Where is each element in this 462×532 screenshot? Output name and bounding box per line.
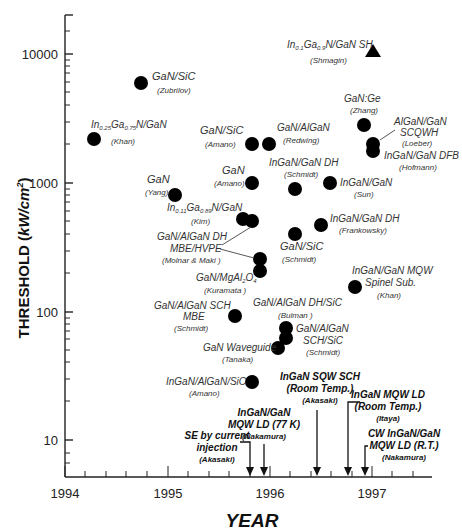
svg-text:MBE: MBE bbox=[183, 311, 205, 322]
svg-text:MQW LD (R.T.): MQW LD (R.T.) bbox=[369, 440, 439, 451]
label-amano-gan: GaN bbox=[222, 164, 245, 176]
label-tanaka: GaN Waveguide bbox=[203, 342, 277, 353]
y-axis-title: THRESHOLD (kW/cm2) bbox=[15, 178, 32, 339]
label-loeber: AlGaN/GaN bbox=[393, 116, 448, 127]
svg-text:Spinel Sub.: Spinel Sub. bbox=[365, 277, 416, 288]
label-hofmann: InGaN/GaN DFB bbox=[384, 150, 459, 161]
svg-text:(Bulman ): (Bulman ) bbox=[278, 311, 313, 320]
svg-text:(Hofmann): (Hofmann) bbox=[399, 163, 437, 172]
point-schmidt-sch-mbe bbox=[228, 309, 242, 323]
point-schmidt-sic bbox=[288, 227, 302, 241]
arrow-heads bbox=[246, 467, 369, 476]
label-yang: GaN bbox=[147, 173, 170, 185]
point-sun bbox=[323, 176, 337, 190]
x-ticks bbox=[65, 466, 413, 477]
svg-text:(Room Temp.): (Room Temp.) bbox=[287, 383, 355, 394]
point-labels: GaN/SiC (Zubrilov) In0.25Ga0.75N/GaN (Kh… bbox=[91, 39, 459, 398]
x-axis-title: YEAR bbox=[226, 510, 279, 531]
svg-text:(Nakamura): (Nakamura) bbox=[242, 432, 286, 441]
x-tick-1994: 1994 bbox=[51, 486, 80, 501]
point-amano-gan-sic bbox=[245, 137, 259, 151]
svg-text:(Redwing): (Redwing) bbox=[283, 136, 320, 145]
svg-text:(Zubrilov): (Zubrilov) bbox=[157, 86, 191, 95]
svg-text:SCQWH: SCQWH bbox=[400, 127, 439, 138]
svg-text:(Akasaki): (Akasaki) bbox=[199, 455, 235, 464]
point-kuramata bbox=[253, 264, 267, 278]
threshold-chart: 10000 1000 100 10 1994 1995 1996 1997 YE… bbox=[0, 0, 462, 532]
point-zhang bbox=[357, 118, 371, 132]
annotation-se-current: SE by current bbox=[184, 430, 250, 441]
svg-text:(Sun): (Sun) bbox=[354, 190, 374, 199]
y-tick-10: 10 bbox=[44, 433, 58, 448]
label-bulman: GaN/AlGaN DH/SiC bbox=[253, 297, 343, 308]
svg-text:MQW LD (77 K): MQW LD (77 K) bbox=[228, 419, 301, 430]
point-kim-2 bbox=[245, 214, 259, 228]
svg-text:injection: injection bbox=[196, 442, 237, 453]
annotation-itaya: InGaN MQW LD bbox=[351, 389, 425, 400]
svg-text:(Schmidt): (Schmidt) bbox=[282, 255, 317, 264]
point-yang bbox=[168, 188, 182, 202]
svg-text:(Kim): (Kim) bbox=[191, 217, 210, 226]
point-hofmann bbox=[366, 144, 380, 158]
annotation-nakamura-77k: InGaN/GaN bbox=[238, 407, 292, 418]
point-redwing bbox=[262, 137, 276, 151]
label-schmidt-sch-sic: GaN/AlGaN bbox=[296, 323, 350, 334]
svg-text:(Schmidt): (Schmidt) bbox=[306, 348, 341, 357]
point-khan-mqw bbox=[348, 280, 362, 294]
label-molnar: GaN/AlGaN DH bbox=[157, 231, 228, 242]
point-amano-gan bbox=[245, 176, 259, 190]
svg-text:SCH/SiC: SCH/SiC bbox=[303, 335, 344, 346]
y-tick-10000: 10000 bbox=[22, 47, 58, 62]
label-schmidt-dh: InGaN/GaN DH bbox=[269, 157, 339, 168]
label-kim: In0.11Ga0.89N/GaN bbox=[167, 202, 243, 214]
svg-text:(Nakamura): (Nakamura) bbox=[382, 453, 426, 462]
label-zubrilov: GaN/SiC bbox=[152, 70, 195, 82]
label-khan-ingan: In0.25Ga0.75N/GaN bbox=[91, 119, 167, 131]
svg-text:(Tanaka): (Tanaka) bbox=[222, 355, 254, 364]
label-khan-mqw: InGaN/GaN MQW bbox=[352, 265, 434, 276]
svg-text:MBE/HVPE: MBE/HVPE bbox=[170, 243, 222, 254]
svg-text:(Frankowsky): (Frankowsky) bbox=[339, 226, 387, 235]
point-molnar bbox=[253, 252, 267, 266]
label-schmidt-sch-mbe: GaN/AlGaN SCH bbox=[154, 300, 231, 311]
label-zhang: GaN:Ge bbox=[344, 93, 381, 104]
label-shmagin: In0.1Ga0.9N/GaN SH bbox=[287, 39, 373, 51]
svg-text:(Amano): (Amano) bbox=[214, 179, 245, 188]
label-sun: InGaN/GaN bbox=[340, 177, 393, 188]
svg-text:(Schmidt): (Schmidt) bbox=[174, 324, 209, 333]
x-tick-1997: 1997 bbox=[358, 486, 387, 501]
x-tick-1996: 1996 bbox=[256, 486, 285, 501]
svg-text:(Kuramata ): (Kuramata ) bbox=[204, 286, 247, 295]
label-redwing: GaN/AlGaN bbox=[277, 122, 331, 133]
y-tick-1000: 1000 bbox=[29, 176, 58, 191]
svg-text:(Zhang): (Zhang) bbox=[350, 106, 378, 115]
point-amano-ingan bbox=[245, 375, 259, 389]
svg-text:(Akasaki): (Akasaki) bbox=[302, 396, 338, 405]
svg-text:(Loeber): (Loeber) bbox=[402, 139, 433, 148]
label-amano-gan-sic: GaN/SiC bbox=[200, 124, 243, 136]
svg-text:(Schmidt): (Schmidt) bbox=[284, 170, 319, 179]
svg-text:(Amano): (Amano) bbox=[205, 140, 236, 149]
svg-text:(Room Temp.): (Room Temp.) bbox=[355, 401, 423, 412]
label-frankowsky: InGaN/GaN DH bbox=[330, 213, 400, 224]
point-khan bbox=[87, 132, 101, 146]
svg-text:(Shmagin): (Shmagin) bbox=[310, 56, 347, 65]
point-frankowsky bbox=[314, 218, 328, 232]
y-minor-ticks bbox=[65, 31, 70, 463]
svg-text:(Khan): (Khan) bbox=[111, 137, 135, 146]
annotation-akasaki-sqw: InGaN SQW SCH bbox=[280, 371, 361, 382]
x-tick-1995: 1995 bbox=[154, 486, 183, 501]
point-schmidt-dh bbox=[288, 182, 302, 196]
point-zubrilov bbox=[134, 76, 148, 90]
svg-text:(Amano): (Amano) bbox=[189, 389, 220, 398]
svg-text:(Khan): (Khan) bbox=[377, 291, 401, 300]
label-schmidt-sic: GaN/SiC bbox=[280, 240, 323, 252]
svg-text:(Yang): (Yang) bbox=[145, 188, 169, 197]
annotation-nakamura-cw: CW InGaN/GaN bbox=[368, 428, 441, 439]
label-kuramata: GaN/MgAl2O4 bbox=[196, 272, 257, 284]
y-tick-100: 100 bbox=[36, 305, 58, 320]
label-amano-ingan: InGaN/AlGaN/SiC bbox=[166, 376, 247, 387]
svg-text:(Molnar & Maki ): (Molnar & Maki ) bbox=[162, 256, 221, 265]
svg-text:(Itaya): (Itaya) bbox=[376, 414, 400, 423]
